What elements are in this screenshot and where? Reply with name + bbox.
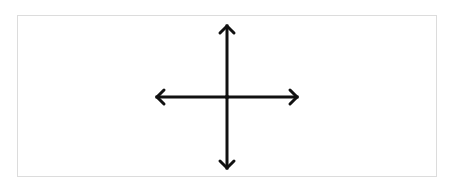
diagram-canvas xyxy=(0,0,456,187)
four-way-arrow-icon xyxy=(0,0,456,187)
